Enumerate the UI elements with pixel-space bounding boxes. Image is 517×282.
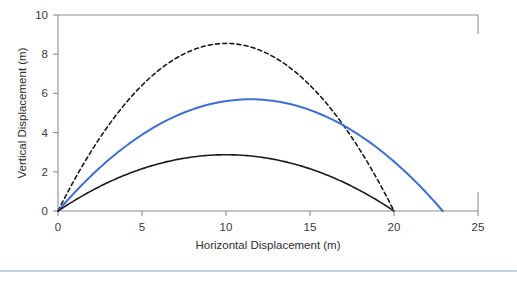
x-tick-marks bbox=[58, 211, 478, 216]
y-tick-marks bbox=[53, 15, 58, 211]
x-tick-label-5: 5 bbox=[139, 221, 145, 233]
x-tick-labels: 0 5 10 15 20 25 bbox=[55, 221, 485, 233]
y-tick-label-0: 0 bbox=[42, 205, 48, 217]
data-series-layer bbox=[58, 43, 443, 211]
y-axis-title: Vertical Displacement (m) bbox=[16, 47, 28, 178]
footer-divider bbox=[0, 270, 517, 272]
y-tick-label-8: 8 bbox=[42, 48, 48, 60]
x-tick-label-0: 0 bbox=[55, 221, 61, 233]
y-tick-label-4: 4 bbox=[42, 127, 49, 139]
series-steep-launch-trajectory bbox=[58, 43, 394, 211]
series-shallow-launch-trajectory bbox=[58, 155, 394, 211]
chart-figure: 0 2 4 6 8 10 0 5 10 15 20 25 Horizontal … bbox=[0, 0, 517, 282]
y-tick-labels: 0 2 4 6 8 10 bbox=[35, 9, 48, 217]
x-tick-label-20: 20 bbox=[388, 221, 401, 233]
x-axis-title: Horizontal Displacement (m) bbox=[195, 239, 340, 251]
y-tick-label-6: 6 bbox=[42, 87, 48, 99]
y-tick-label-2: 2 bbox=[42, 166, 48, 178]
x-tick-label-25: 25 bbox=[472, 221, 485, 233]
projectile-trajectory-chart: 0 2 4 6 8 10 0 5 10 15 20 25 Horizontal … bbox=[0, 0, 517, 282]
y-tick-label-10: 10 bbox=[35, 9, 48, 21]
x-tick-label-10: 10 bbox=[220, 221, 233, 233]
x-tick-label-15: 15 bbox=[304, 221, 317, 233]
